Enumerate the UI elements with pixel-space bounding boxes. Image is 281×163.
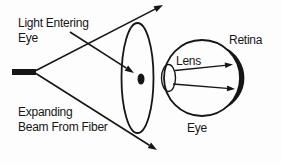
optics-diagram-svg: Light Entering Eye Expanding Beam From F…	[0, 0, 281, 163]
retina-ray-lower-arrowhead-icon	[227, 86, 235, 92]
light-entering-label-line1: Light Entering	[18, 16, 89, 30]
beam-upper-arrowhead-icon	[154, 5, 164, 12]
diagram-canvas: Light Entering Eye Expanding Beam From F…	[0, 0, 281, 163]
retina-crescent	[224, 47, 244, 108]
expanding-beam-label-line2: Beam From Fiber	[18, 120, 108, 134]
beam-wavefront-ellipse	[122, 23, 154, 133]
focal-spot-dot	[138, 74, 145, 85]
retina-label: Retina	[229, 33, 263, 47]
lens-label: Lens	[176, 54, 201, 68]
light-entering-arrowhead-icon	[125, 66, 134, 74]
retina-ray-upper-arrowhead-icon	[225, 63, 233, 69]
light-entering-label-line2: Eye	[18, 31, 39, 45]
beam-lower-arrowhead-icon	[148, 143, 157, 151]
expanding-beam-label-line1: Expanding	[18, 105, 72, 119]
retina-ray-lower-line	[173, 84, 227, 88]
eye-label: Eye	[187, 121, 208, 135]
light-entering-leader-line	[70, 32, 126, 68]
fiber-bar	[12, 69, 36, 75]
